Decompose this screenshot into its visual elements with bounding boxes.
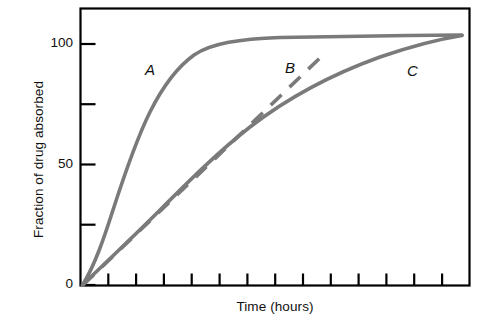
plot-frame xyxy=(81,9,470,286)
curve-label-c: C xyxy=(407,62,418,79)
y-axis-title: Fraction of drug absorbed xyxy=(31,36,46,284)
x-axis-title: Time (hours) xyxy=(80,299,470,314)
y-axis-ticks xyxy=(81,44,96,285)
curve-label-a: A xyxy=(145,61,155,78)
curve-label-b: B xyxy=(285,59,295,76)
chart-figure: 100 50 0 A B C Fraction of drug absorbed… xyxy=(0,0,485,323)
curve-a xyxy=(83,35,463,285)
x-axis-ticks xyxy=(108,274,442,286)
curve-c xyxy=(83,36,463,286)
